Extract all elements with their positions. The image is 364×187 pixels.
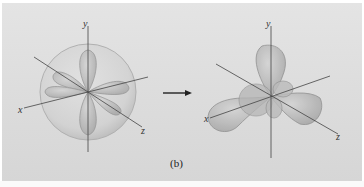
right-y-label: y bbox=[265, 18, 271, 29]
right-z-label: z bbox=[335, 131, 340, 142]
transform-arrow bbox=[163, 90, 192, 96]
right-x-label: x bbox=[203, 113, 209, 124]
right-orbital-group: y x z bbox=[203, 18, 340, 158]
figure: y x z y x z bbox=[0, 0, 364, 187]
left-x-label: x bbox=[17, 104, 23, 115]
figure-caption: (b) bbox=[170, 157, 183, 169]
left-z-label: z bbox=[140, 125, 145, 136]
left-y-label: y bbox=[82, 18, 88, 29]
hybrid-small-lobe-c bbox=[266, 98, 282, 118]
left-orbital-group: y x z bbox=[17, 18, 148, 152]
